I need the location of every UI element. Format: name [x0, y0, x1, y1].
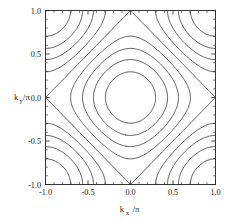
x-tick-label: 0.0	[125, 188, 135, 197]
y-tick-label: 0.5	[31, 50, 41, 59]
contour-plot-figure: -1.0-0.50.00.51.0 -1.0-0.50.00.51.0 k x …	[0, 0, 232, 222]
x-tick-label: 0.5	[168, 188, 178, 197]
y-axis-title-tail: /π	[23, 92, 30, 102]
y-tick-label: -1.0	[28, 181, 41, 190]
plot-canvas: -1.0-0.50.00.51.0 -1.0-0.50.00.51.0 k x …	[0, 0, 232, 222]
x-tick-label: 1.0	[210, 188, 220, 197]
y-axis-title-main: k	[14, 92, 19, 102]
y-axis-title: k y /π	[14, 92, 30, 104]
x-axis-title-tail: /π	[133, 204, 140, 214]
y-tick-label: 0.0	[31, 94, 41, 103]
x-axis-title-main: k	[120, 204, 125, 214]
y-tick-label: 1.0	[31, 7, 41, 16]
y-tick-label: -0.5	[28, 137, 41, 146]
x-tick-label: -0.5	[82, 188, 95, 197]
